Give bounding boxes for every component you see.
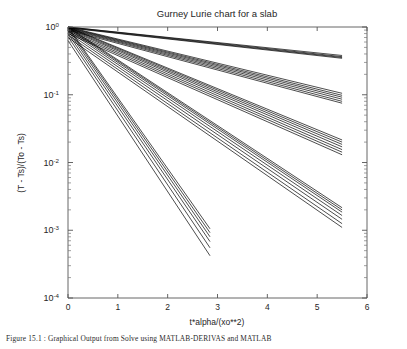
y-tick-label: 10-3 <box>43 224 59 236</box>
x-tick-label: 6 <box>365 302 370 312</box>
y-tick-labels: 10-410-310-210-1100 <box>43 21 59 304</box>
x-tick-label: 1 <box>115 302 120 312</box>
x-tick-label: 4 <box>265 302 270 312</box>
x-axis-label: t*alpha/(xo**2) <box>190 317 245 327</box>
gurney-lurie-chart: Gurney Lurie chart for a slab 0123456 10… <box>0 0 407 332</box>
x-tick-label: 5 <box>315 302 320 312</box>
y-tick-label: 10-4 <box>43 292 59 304</box>
figure-caption: Figure 15.1 : Graphical Output from Solv… <box>6 334 401 343</box>
plot-background <box>68 27 367 298</box>
x-tick-label: 0 <box>66 302 71 312</box>
chart-title: Gurney Lurie chart for a slab <box>157 8 277 19</box>
x-tick-labels: 0123456 <box>66 302 370 312</box>
y-tick-label: 10-1 <box>43 88 59 100</box>
figure-panel: Gurney Lurie chart for a slab 0123456 10… <box>0 0 407 332</box>
x-tick-label: 2 <box>165 302 170 312</box>
x-tick-label: 3 <box>215 302 220 312</box>
y-axis-label: (T - Ts)/(To - Ts) <box>16 133 26 193</box>
y-tick-label: 100 <box>46 21 60 33</box>
figure-caption-strip: Figure 15.1 : Graphical Output from Solv… <box>0 332 407 349</box>
y-tick-label: 10-2 <box>43 156 59 168</box>
